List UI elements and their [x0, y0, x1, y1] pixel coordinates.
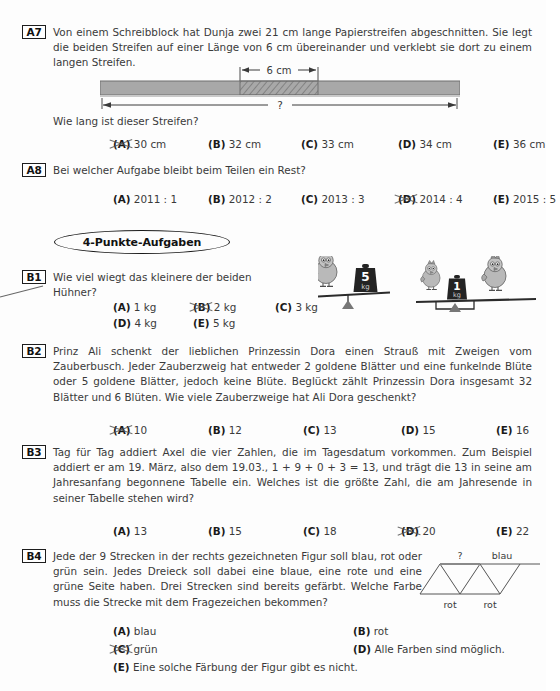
- option-B4-E[interactable]: (E) Eine solche Färbung der Figur gibt e…: [113, 661, 358, 673]
- option-B2-D-value: 15: [422, 424, 435, 436]
- triangle-strip-figure: ? blau rot rot: [418, 548, 542, 610]
- option-B1-D-label: (D): [113, 317, 131, 329]
- problem-B2: B2 Prinz Ali schenkt der lieblichen Prin…: [22, 344, 532, 405]
- option-A8-B[interactable]: (B) 2012 : 2: [208, 193, 272, 205]
- option-A7-E-value: 36 cm: [513, 138, 545, 150]
- option-A7-E-label: (E): [493, 138, 510, 150]
- option-B3-A-value: 13: [134, 525, 147, 537]
- option-B2-B[interactable]: (B) 12: [208, 424, 242, 436]
- option-A8-E[interactable]: (E) 2015 : 5: [493, 193, 556, 205]
- answers-B1-row2: (D) 4 kg (E) 5 kg: [53, 317, 373, 333]
- option-B3-A[interactable]: (A) 13: [113, 525, 147, 537]
- option-A7-A[interactable]: (A) 30 cm: [113, 138, 166, 150]
- answers-A7: (A) 30 cm (B) 32 cm (C) 33 cm (D) 34 cm …: [53, 138, 560, 154]
- problem-B3: B3 Tag für Tag addiert Axel die vier Zah…: [22, 445, 532, 506]
- option-B2-C[interactable]: (C) 13: [303, 424, 337, 436]
- option-B4-A-value: blau: [134, 625, 156, 637]
- option-B4-D[interactable]: (D) Alle Farben sind möglich.: [353, 643, 505, 655]
- option-A7-B-label: (B): [208, 138, 225, 150]
- option-B4-C[interactable]: (C) grün: [113, 643, 157, 655]
- option-B4-E-label: (E): [113, 661, 130, 673]
- problem-B2-text: Prinz Ali schenkt der lieblichen Prinzes…: [53, 344, 532, 405]
- option-B3-D-label: (D): [401, 525, 419, 537]
- problem-number-B1: B1: [22, 270, 46, 284]
- overlap-arrow-right: [309, 67, 316, 73]
- problem-number-A7: A7: [22, 25, 46, 39]
- weight-5kg-unit: kg: [361, 283, 370, 291]
- total-arrow-right: [448, 102, 456, 108]
- balance-right-fulcrum: [449, 303, 461, 312]
- option-A7-A-label: (A): [113, 138, 131, 150]
- problem-A8-text: Bei welcher Aufgabe bleibt beim Teilen e…: [53, 163, 532, 178]
- problem-B1: B1 Wie viel wiegt das kleinere der beide…: [22, 270, 282, 300]
- overlap-label: 6 cm: [267, 65, 292, 76]
- problem-A7-question-row: Wie lang ist dieser Streifen?: [22, 114, 532, 129]
- problem-B3-text: Tag für Tag addiert Axel die vier Zahlen…: [53, 445, 532, 506]
- option-B2-E-value: 16: [516, 424, 529, 436]
- option-B4-B-label: (B): [353, 625, 370, 637]
- option-A7-B[interactable]: (B) 32 cm: [208, 138, 261, 150]
- answers-B4-row2: (C) grün (D) Alle Farben sind möglich.: [53, 643, 560, 659]
- option-A8-C[interactable]: (C) 2013 : 3: [301, 193, 365, 205]
- option-A7-D[interactable]: (D) 34 cm: [398, 138, 452, 150]
- problem-number-B4: B4: [22, 549, 46, 563]
- option-B2-B-label: (B): [208, 424, 225, 436]
- option-B2-D-label: (D): [401, 424, 419, 436]
- answers-B3: (A) 13 (B) 15 (C) 18 (D) 20 (E) 22: [53, 525, 560, 541]
- label-question-mark: ?: [457, 550, 462, 561]
- option-A7-C[interactable]: (C) 33 cm: [301, 138, 354, 150]
- option-B2-D[interactable]: (D) 15: [401, 424, 436, 436]
- section-banner-label: 4-Punkte-Aufgaben: [54, 230, 230, 254]
- option-B4-B-value: rot: [374, 625, 388, 637]
- option-A7-C-label: (C): [301, 138, 318, 150]
- option-B2-A[interactable]: (A) 10: [113, 424, 147, 436]
- problem-B4: B4 Jede der 9 Strecken in der rechts gez…: [22, 549, 422, 610]
- option-A8-D[interactable]: (D) 2014 : 4: [398, 193, 463, 205]
- option-A8-D-value: 2014 : 4: [419, 193, 462, 205]
- balance-right: 1 kg: [416, 256, 536, 312]
- option-A8-C-value: 2013 : 3: [321, 193, 364, 205]
- answers-B2: (A) 10 (B) 12 (C) 13 (D) 15 (E) 16: [53, 424, 560, 440]
- option-B1-D[interactable]: (D) 4 kg: [113, 317, 157, 329]
- option-A8-E-label: (E): [493, 193, 510, 205]
- option-B3-E-label: (E): [496, 525, 513, 537]
- strip-shadow: [100, 95, 460, 97]
- option-B3-D[interactable]: (D) 20: [401, 525, 436, 537]
- option-B3-C[interactable]: (C) 18: [303, 525, 337, 537]
- option-B2-A-label: (A): [113, 424, 131, 436]
- option-B2-C-value: 13: [323, 424, 336, 436]
- problem-number-B3: B3: [22, 445, 46, 459]
- option-B2-A-value: 10: [134, 424, 147, 436]
- option-B1-B[interactable]: (B) 2 kg: [193, 301, 236, 313]
- option-B1-D-value: 4 kg: [134, 317, 157, 329]
- hen-icon: [421, 260, 440, 289]
- total-length-label: ?: [277, 99, 283, 111]
- option-A7-C-value: 33 cm: [321, 138, 353, 150]
- strip-overlap-region: [240, 81, 318, 95]
- option-B2-B-value: 12: [229, 424, 242, 436]
- option-A8-D-label: (D): [398, 193, 416, 205]
- problem-number-A8: A8: [22, 163, 46, 177]
- answers-B1-row1: (A) 1 kg (B) 2 kg (C) 3 kg: [53, 301, 373, 317]
- option-B4-A[interactable]: (A) blau: [113, 625, 156, 637]
- weight-1kg: 1 kg: [447, 275, 467, 300]
- option-B1-C-value: 3 kg: [295, 301, 318, 313]
- option-B1-B-label: (B): [193, 301, 210, 313]
- option-B3-C-label: (C): [303, 525, 320, 537]
- option-B2-E[interactable]: (E) 16: [496, 424, 529, 436]
- balance-left-beam: [318, 293, 390, 298]
- option-A8-A[interactable]: (A) 2011 : 1: [113, 193, 177, 205]
- paper-strip-figure: 6 cm ?: [100, 62, 460, 112]
- option-B3-D-value: 20: [422, 525, 435, 537]
- option-B3-B-value: 15: [229, 525, 242, 537]
- label-rot-right: rot: [483, 599, 497, 610]
- option-B4-B[interactable]: (B) rot: [353, 625, 388, 637]
- option-B3-E[interactable]: (E) 22: [496, 525, 529, 537]
- option-A7-E[interactable]: (E) 36 cm: [493, 138, 545, 150]
- triangle-strip-svg: ? blau rot rot: [418, 548, 542, 610]
- option-B3-B[interactable]: (B) 15: [208, 525, 242, 537]
- option-B1-A[interactable]: (A) 1 kg: [113, 301, 156, 313]
- option-B1-E[interactable]: (E) 5 kg: [193, 317, 235, 329]
- option-B1-C[interactable]: (C) 3 kg: [275, 301, 318, 313]
